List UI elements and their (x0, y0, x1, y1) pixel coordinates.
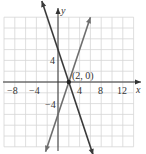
x-tick-label: 12 (117, 85, 127, 96)
plot-line (46, 17, 91, 151)
x-tick-label: −4 (29, 85, 40, 96)
arrowhead-icon (89, 148, 94, 154)
x-tick-label: 8 (98, 85, 103, 96)
intersection-point (67, 80, 71, 84)
y-axis-arrow-icon (56, 8, 61, 14)
y-axis-label: y (60, 5, 66, 16)
arrowhead-icon (86, 17, 91, 24)
x-axis-label: x (135, 84, 141, 95)
y-tick-label: −4 (45, 99, 56, 110)
x-tick-label: 4 (77, 85, 82, 96)
point-label: (2, 0) (72, 70, 94, 82)
arrowhead-icon (41, 1, 46, 8)
x-tick-label: −8 (7, 85, 18, 96)
y-tick-label: 4 (50, 55, 55, 66)
chart: y x (2, 0) −8 −4 4 8 12 4 −4 (0, 0, 146, 154)
arrowhead-icon (45, 145, 50, 152)
